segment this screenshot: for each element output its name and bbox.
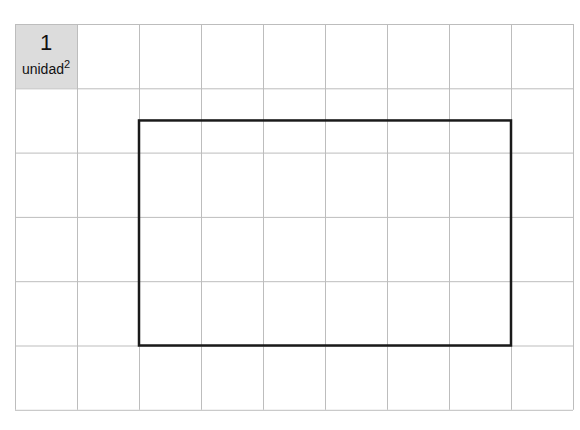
grid — [15, 24, 575, 414]
grid-lines — [15, 24, 574, 410]
